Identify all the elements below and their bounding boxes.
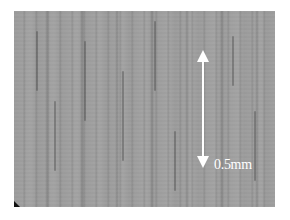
scale-label: 0.5mm	[214, 157, 252, 173]
scale-line	[202, 60, 204, 158]
arrow-down-icon	[197, 156, 209, 168]
scale-bar	[193, 50, 213, 168]
texture-streak	[84, 41, 86, 121]
micrograph-image	[14, 11, 275, 207]
texture-streak	[174, 131, 176, 191]
texture-streak	[154, 21, 156, 91]
texture-streak	[36, 31, 38, 91]
texture-streak	[54, 101, 56, 171]
texture-streak	[232, 36, 234, 86]
corner-mark	[14, 201, 20, 207]
texture-streak	[122, 71, 124, 161]
texture-streak	[254, 111, 256, 181]
